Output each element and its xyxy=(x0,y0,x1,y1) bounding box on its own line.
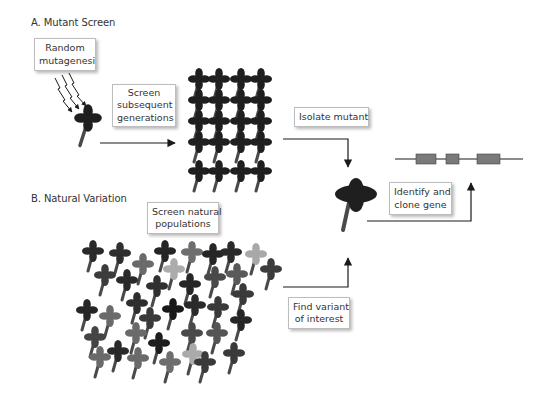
exon-2 xyxy=(446,154,459,164)
find-variant-line2: of interest xyxy=(293,313,345,326)
mutagenesis-rays xyxy=(55,73,86,112)
box-screen-natural: Screen natural populations xyxy=(147,202,219,234)
identify-clone-line2: clone gene xyxy=(394,199,447,212)
arrow-isolate-mutant xyxy=(283,139,348,167)
box-identify-clone: Identify and clone gene xyxy=(389,182,452,215)
mutagenized-plant xyxy=(74,104,102,145)
box-random-mutagenesis: Random mutagenesi xyxy=(34,38,96,71)
screen-subsequent-line2: subsequent xyxy=(117,99,171,112)
natural-population xyxy=(76,240,282,382)
box-isolate-mutant: Isolate mutant xyxy=(294,107,369,127)
exon-1 xyxy=(416,154,436,164)
section-a-label: A. Mutant Screen xyxy=(31,17,115,28)
find-variant-line1: Find variant xyxy=(293,301,345,314)
screen-natural-line2: populations xyxy=(152,218,214,231)
box-screen-subsequent: Screen subsequent generations xyxy=(112,84,176,127)
arrow-find-variant xyxy=(283,258,348,287)
isolate-mutant-line1: Isolate mutant xyxy=(299,111,364,124)
mutant-population-grid xyxy=(188,68,272,191)
exon-3 xyxy=(477,154,500,164)
box-find-variant: Find variant of interest xyxy=(288,297,350,329)
screen-subsequent-line1: Screen xyxy=(117,87,171,100)
random-mutagenesis-line1: Random xyxy=(39,42,91,55)
screen-natural-line1: Screen natural xyxy=(152,206,214,219)
isolated-mutant-plant xyxy=(335,178,377,230)
random-mutagenesis-line2: mutagenesi xyxy=(39,55,91,68)
identify-clone-line1: Identify and xyxy=(394,186,447,199)
section-b-label: B. Natural Variation xyxy=(31,193,127,204)
gene-structure xyxy=(395,154,523,164)
screen-subsequent-line3: generations xyxy=(117,112,171,125)
